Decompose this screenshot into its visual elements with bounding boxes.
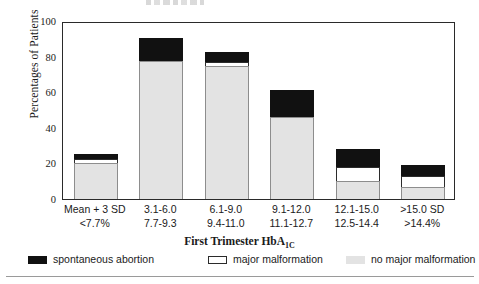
footer-divider	[6, 276, 474, 277]
y-tick-80: 80	[30, 53, 56, 63]
bar-4-segment-spontaneous-abortion	[270, 90, 314, 117]
bar-6-segment-spontaneous-abortion	[401, 165, 445, 176]
x-axis-title: First Trimester HbA1C	[0, 235, 479, 250]
legend-item-3-label: no major malformation	[371, 254, 475, 265]
white-swatch-icon	[208, 256, 227, 264]
chart-legend: spontaneous abortionmajor malformationno…	[28, 254, 456, 268]
bar-5-segment-no-major-malformation	[336, 181, 380, 199]
bar-6[interactable]	[401, 165, 445, 199]
plot-area	[62, 22, 455, 200]
bar-2-segment-no-major-malformation	[139, 61, 183, 199]
y-tick-40: 40	[30, 124, 56, 134]
bar-1-segment-spontaneous-abortion	[74, 154, 118, 159]
bar-6-segment-major-malformation	[401, 176, 445, 187]
bar-1-segment-major-malformation	[74, 159, 118, 163]
x-axis-title-subscript: 1C	[285, 241, 295, 250]
bar-2[interactable]	[139, 38, 183, 199]
y-tick-60: 60	[30, 88, 56, 98]
legend-item-3[interactable]: no major malformation	[346, 254, 475, 265]
legend-item-1[interactable]: spontaneous abortion	[28, 254, 154, 265]
x-category-label-6-line2: >14.4%	[382, 217, 462, 231]
cropped-header-text-sliver	[146, 0, 204, 5]
bar-5-segment-major-malformation	[336, 167, 380, 181]
bar-5[interactable]	[336, 149, 380, 199]
x-category-label-6-line1: >15.0 SD	[382, 203, 462, 217]
x-axis-title-main: First Trimester HbA	[184, 235, 285, 247]
bar-3[interactable]	[205, 52, 249, 199]
x-axis-category-labels: Mean + 3 SD<7.7%3.1-6.07.7-9.36.1-9.09.4…	[62, 203, 455, 235]
y-tick-0: 0	[30, 195, 56, 205]
x-category-label-6: >15.0 SD>14.4%	[382, 203, 462, 230]
bar-6-segment-no-major-malformation	[401, 187, 445, 199]
legend-item-1-label: spontaneous abortion	[53, 254, 154, 265]
bar-1[interactable]	[74, 154, 118, 199]
legend-item-2[interactable]: major malformation	[208, 254, 323, 265]
bar-4[interactable]	[270, 90, 314, 199]
bar-3-segment-no-major-malformation	[205, 66, 249, 200]
bar-3-segment-major-malformation	[205, 62, 249, 66]
bar-3-segment-spontaneous-abortion	[205, 52, 249, 62]
y-tick-100: 100	[30, 17, 56, 27]
black-swatch-icon	[28, 256, 47, 264]
bar-5-segment-spontaneous-abortion	[336, 149, 380, 167]
y-tick-20: 20	[30, 159, 56, 169]
bar-2-segment-spontaneous-abortion	[139, 38, 183, 61]
bar-4-segment-no-major-malformation	[270, 117, 314, 199]
bar-1-segment-no-major-malformation	[74, 163, 118, 199]
legend-item-2-label: major malformation	[233, 254, 323, 265]
gray-swatch-icon	[346, 256, 365, 264]
